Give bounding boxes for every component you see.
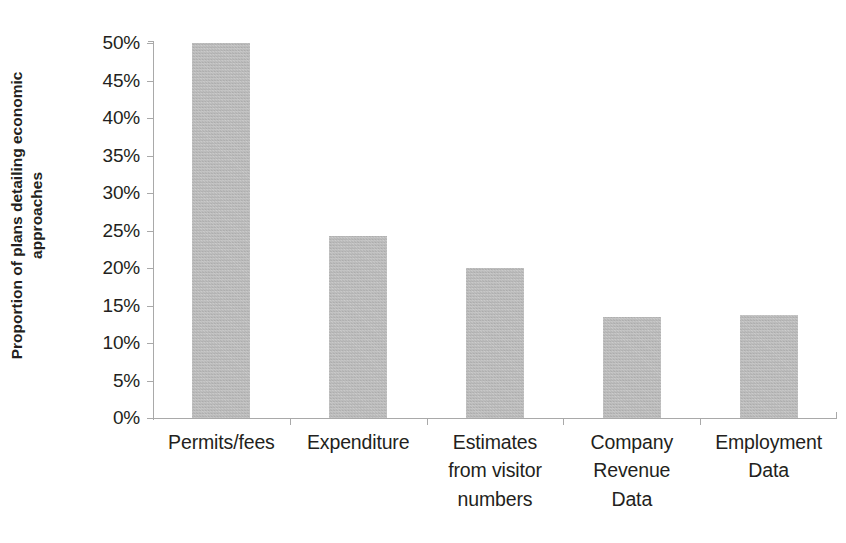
x-axis-category-label-line: Revenue bbox=[563, 456, 700, 484]
x-axis-category-labels: Permits/feesExpenditureEstimatesfrom vis… bbox=[153, 428, 837, 538]
bar-chart-figure: Proportion of plans detailing economic a… bbox=[0, 0, 846, 543]
y-axis-tick-label: 25% bbox=[78, 220, 140, 242]
y-axis-title: Proportion of plans detailing economic a… bbox=[0, 0, 56, 430]
bar bbox=[603, 317, 661, 418]
y-axis-tick-label: 45% bbox=[78, 70, 140, 92]
x-axis-category-label: Expenditure bbox=[290, 428, 427, 456]
bar bbox=[329, 236, 387, 418]
x-axis-category-label-line: from visitor bbox=[427, 456, 564, 484]
y-axis-tick-label: 40% bbox=[78, 107, 140, 129]
y-axis-tick-mark bbox=[147, 118, 153, 119]
plot-area bbox=[153, 43, 837, 418]
bar bbox=[740, 315, 798, 418]
x-axis-category-label-line: Expenditure bbox=[290, 428, 427, 456]
y-axis-tick-label: 20% bbox=[78, 257, 140, 279]
x-axis-category-label-line: Permits/fees bbox=[153, 428, 290, 456]
x-axis-category-label-line: Company bbox=[563, 428, 700, 456]
y-axis-tick-mark bbox=[147, 418, 153, 419]
y-axis-tick-label: 50% bbox=[78, 32, 140, 54]
y-axis-line bbox=[153, 41, 154, 420]
y-axis-tick-mark bbox=[147, 381, 153, 382]
y-axis-tick-mark bbox=[147, 343, 153, 344]
x-axis-category-label: Permits/fees bbox=[153, 428, 290, 456]
y-axis-tick-mark bbox=[147, 193, 153, 194]
y-axis-tick-mark bbox=[147, 43, 153, 44]
x-axis-category-label: Estimatesfrom visitornumbers bbox=[427, 428, 564, 513]
x-axis-separator-tick bbox=[563, 418, 564, 425]
y-axis-tick-label: 5% bbox=[78, 370, 140, 392]
y-axis-tick-mark bbox=[147, 231, 153, 232]
y-axis-tick-mark bbox=[147, 81, 153, 82]
y-axis-tick-mark bbox=[147, 268, 153, 269]
bar bbox=[466, 268, 524, 418]
x-axis-category-label-line: Data bbox=[700, 456, 837, 484]
y-axis-tick-label: 15% bbox=[78, 295, 140, 317]
y-axis-title-line-1: Proportion of plans detailing economic bbox=[8, 71, 28, 359]
x-axis-separator-tick bbox=[427, 418, 428, 425]
x-axis-separator-tick bbox=[700, 418, 701, 425]
x-axis-category-label-line: Estimates bbox=[427, 428, 564, 456]
y-axis-tick-mark bbox=[147, 306, 153, 307]
x-axis-category-label: CompanyRevenueData bbox=[563, 428, 700, 513]
y-axis-tick-label: 0% bbox=[78, 407, 140, 429]
y-axis-tick-label: 30% bbox=[78, 182, 140, 204]
y-axis-tick-mark bbox=[147, 156, 153, 157]
y-axis-tick-label: 35% bbox=[78, 145, 140, 167]
x-axis-category-label-line: numbers bbox=[427, 485, 564, 513]
y-axis-top-cap bbox=[148, 41, 154, 42]
x-axis-line bbox=[152, 418, 837, 419]
y-axis-tick-label: 10% bbox=[78, 332, 140, 354]
x-axis-category-label-line: Data bbox=[563, 485, 700, 513]
y-axis-title-line-2: approaches bbox=[28, 71, 48, 359]
x-axis-category-label: EmploymentData bbox=[700, 428, 837, 485]
x-axis-category-label-line: Employment bbox=[700, 428, 837, 456]
y-axis-tick-labels: 0%5%10%15%20%25%30%35%40%45%50% bbox=[78, 43, 140, 418]
bar bbox=[192, 43, 250, 418]
x-axis-end-cap bbox=[836, 412, 837, 419]
x-axis-separator-tick bbox=[290, 418, 291, 425]
